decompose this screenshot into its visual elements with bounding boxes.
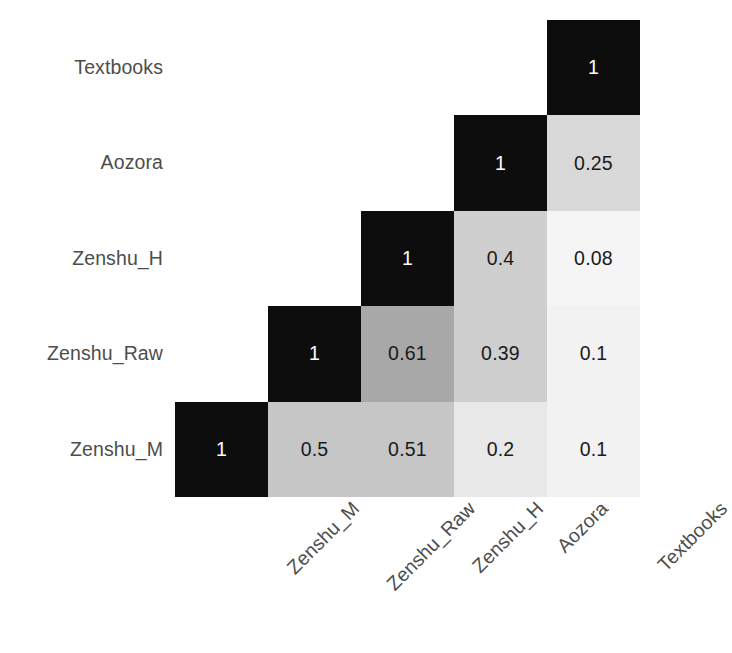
heatmap-cell-value: 0.61 xyxy=(361,306,454,401)
heatmap-cell-value: 1 xyxy=(454,115,547,210)
heatmap-cell[interactable]: 0.4 xyxy=(454,211,547,306)
heatmap-cell-value: 0.39 xyxy=(454,306,547,401)
heatmap-grid: 1 1 0.25 1 0.4 0.08 1 0.61 0.39 0.1 xyxy=(175,20,640,497)
y-axis-tick-label: Aozora xyxy=(0,115,163,210)
x-axis-tick-label: Textbooks xyxy=(653,497,732,576)
heatmap-cell[interactable]: 0.61 xyxy=(361,306,454,401)
heatmap-cell-value: 0.25 xyxy=(547,115,640,210)
x-axis-tick-labels: Zenshu_M Zenshu_Raw Zenshu_H Aozora Text… xyxy=(175,497,661,653)
heatmap-cell-value: 0.1 xyxy=(547,402,640,497)
heatmap-cell[interactable]: 0.1 xyxy=(547,402,640,497)
heatmap-cell[interactable]: 0.08 xyxy=(547,211,640,306)
heatmap-cell-value: 1 xyxy=(547,20,640,115)
heatmap-cell[interactable]: 0.5 xyxy=(268,402,361,497)
y-axis-tick-label: Textbooks xyxy=(0,20,163,115)
heatmap-cell[interactable]: 0.51 xyxy=(361,402,454,497)
x-axis-tick-label: Zenshu_Raw xyxy=(382,497,480,595)
heatmap-cell-value: 0.4 xyxy=(454,211,547,306)
x-axis-tick-label: Zenshu_H xyxy=(468,497,548,577)
x-axis-tick-label: Aozora xyxy=(552,497,612,557)
heatmap-cell-value: 0.2 xyxy=(454,402,547,497)
heatmap-cell-value: 0.08 xyxy=(547,211,640,306)
heatmap-cell[interactable]: 1 xyxy=(547,20,640,115)
heatmap-cell[interactable]: 0.39 xyxy=(454,306,547,401)
heatmap-cell-value: 1 xyxy=(175,402,268,497)
heatmap-cell[interactable]: 1 xyxy=(175,402,268,497)
y-axis-tick-labels: Textbooks Aozora Zenshu_H Zenshu_Raw Zen… xyxy=(0,20,163,497)
y-axis-tick-label: Zenshu_M xyxy=(0,402,163,497)
heatmap-cell-value: 0.51 xyxy=(361,402,454,497)
heatmap-cell[interactable]: 1 xyxy=(268,306,361,401)
heatmap-cell-value: 0.5 xyxy=(268,402,361,497)
heatmap-cell[interactable]: 1 xyxy=(454,115,547,210)
heatmap-cell[interactable]: 0.2 xyxy=(454,402,547,497)
x-axis-tick-label: Zenshu_M xyxy=(282,497,364,579)
heatmap-cell[interactable]: 1 xyxy=(361,211,454,306)
heatmap-cell-value: 1 xyxy=(268,306,361,401)
y-axis-tick-label: Zenshu_Raw xyxy=(0,306,163,401)
heatmap-cell[interactable]: 0.1 xyxy=(547,306,640,401)
heatmap-cell[interactable]: 0.25 xyxy=(547,115,640,210)
heatmap-cell-value: 0.1 xyxy=(547,306,640,401)
y-axis-tick-label: Zenshu_H xyxy=(0,211,163,306)
heatmap-cell-value: 1 xyxy=(361,211,454,306)
